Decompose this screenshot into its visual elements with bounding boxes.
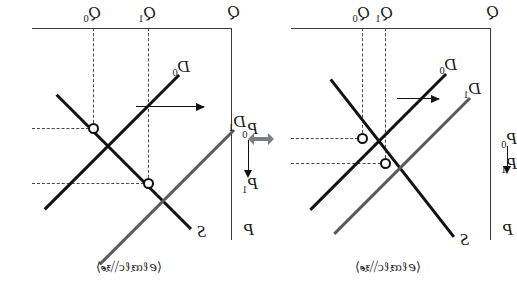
axis-label-quantity-right: Q [487, 3, 499, 20]
guide-p1-right [291, 163, 386, 164]
plot-area-left: Q0 Q1 Q P0 P1 P D0 [32, 28, 232, 240]
equilibrium-point-new-right [381, 158, 392, 169]
guide-q0-left [93, 28, 94, 128]
tick-label-q0-left: Q0 [83, 4, 101, 25]
guide-p1-left [32, 183, 149, 184]
equilibrium-point-initial-left [89, 123, 100, 134]
curve-label-supply-right: S [461, 231, 470, 248]
demand-shift-arrow-left [136, 106, 204, 107]
equilibrium-point-new-left [144, 178, 155, 189]
guide-q1-right [385, 28, 386, 163]
tick-label-q1-left: Q1 [138, 4, 156, 25]
tick-label-p1-left: P1 [242, 175, 258, 196]
plot-area-right: Q0 Q1 Q P0 P1 P D0 D1 [291, 28, 491, 240]
guide-p0-left [32, 128, 94, 129]
figure-root: Q0 Q1 Q P0 P1 P D0 [0, 0, 517, 285]
axis-label-price-right: P [503, 221, 513, 238]
quantity-axis-right [291, 28, 491, 29]
panel-elastic-supply: Q0 Q1 Q P0 P1 P D0 [0, 0, 258, 285]
quantity-axis-left [32, 28, 232, 29]
supply-curve-left [56, 94, 192, 230]
curve-label-demand-initial-right: D0 [439, 56, 457, 77]
tick-label-p1-right: P1 [501, 155, 517, 176]
panel-caption-left: ⟨ℯℓαⲝℓс⧹⧹ⲝℯ⟩ [0, 259, 258, 275]
arrow-shaft [253, 137, 269, 141]
curve-label-demand-new-right: D1 [463, 80, 481, 101]
axis-label-price-left: P [244, 221, 254, 238]
tick-label-q1-right: Q1 [375, 4, 393, 25]
axis-label-quantity-left: Q [228, 3, 240, 20]
panel-inelastic-supply: Q0 Q1 Q P0 P1 P D0 D1 [259, 0, 517, 285]
panel-caption-right: ⟨ℯℓαⲝℓс⧹⧹ⲝℯ⟩ [259, 259, 517, 275]
price-axis-right [490, 28, 491, 240]
demand-curve-initial-left [44, 74, 180, 210]
tick-label-q0-right: Q0 [352, 4, 370, 25]
equilibrium-point-initial-right [358, 133, 369, 144]
demand-shift-arrow-right [397, 98, 439, 99]
curve-label-supply-left: S [198, 223, 207, 240]
double-arrow-icon [248, 133, 274, 145]
arrowhead-right [268, 133, 274, 145]
guide-p0-right [291, 138, 363, 139]
tick-label-p0-right: P0 [501, 130, 517, 151]
curve-label-demand-new-left: D1 [228, 113, 246, 134]
curve-label-demand-initial-left: D0 [172, 58, 190, 79]
demand-curve-new-left [99, 129, 235, 265]
